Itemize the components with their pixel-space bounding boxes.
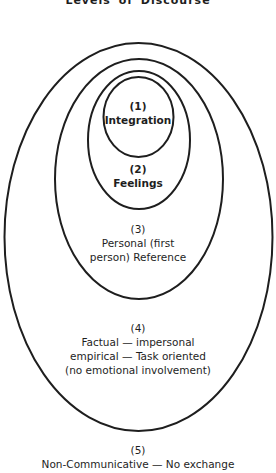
level-2-text: Feelings [0,176,276,190]
level-5-text: Non-Communicative — No exchange [0,457,276,471]
level-3-text-line-1: Personal (first [0,236,276,250]
level-1-label: (1) Integration [0,99,276,127]
level-5-label: (5) Non-Communicative — No exchange [0,443,276,471]
level-2-number: (2) [0,162,276,176]
level-4-text-line-3: (no emotional involvement) [0,363,276,377]
level-5-number: (5) [0,443,276,457]
level-3-label: (3) Personal (first person) Reference [0,222,276,264]
level-1-text: Integration [0,113,276,127]
level-4-text-line-2: empirical — Task oriented [0,349,276,363]
level-1-number: (1) [0,99,276,113]
level-4-label: (4) Factual — impersonal empirical — Tas… [0,321,276,377]
level-2-label: (2) Feelings [0,162,276,190]
level-4-text-line-1: Factual — impersonal [0,335,276,349]
level-3-text-line-2: person) Reference [0,250,276,264]
level-3-number: (3) [0,222,276,236]
level-4-number: (4) [0,321,276,335]
